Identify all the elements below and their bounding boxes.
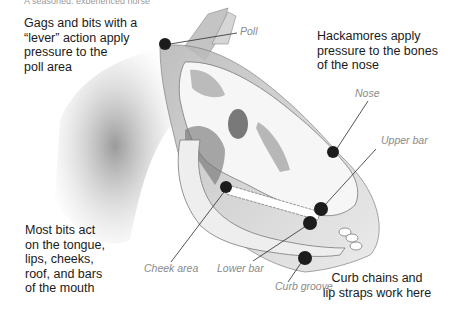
caption-line: on the tongue,: [25, 238, 135, 253]
neck-shading: [55, 48, 175, 244]
eye-socket: [228, 109, 248, 139]
caption-poll: Gags and bits with a “lever” action appl…: [24, 16, 184, 74]
nose-dot: [327, 146, 339, 158]
label-curb-groove: Curb groove: [275, 280, 333, 292]
caption-line: lips, cheeks,: [25, 252, 135, 267]
cheek-area-dot: [220, 181, 232, 193]
curb-groove-dot: [298, 251, 312, 265]
caption-nose: Hackamores apply pressure to the bones o…: [317, 29, 450, 73]
caption-line: Hackamores apply: [317, 29, 450, 44]
caption-line: Gags and bits with a: [24, 16, 184, 31]
label-poll: Poll: [240, 25, 258, 37]
caption-line: Curb chains and: [322, 271, 432, 286]
caption-line: of the mouth: [25, 281, 135, 296]
caption-line: pressure to the: [24, 45, 184, 60]
caption-line: roof, and bars: [25, 267, 135, 282]
label-cheek-area: Cheek area: [144, 262, 198, 274]
caption-line: pressure to the bones: [317, 44, 450, 59]
lower-bar-dot: [303, 216, 317, 230]
caption-line: of the nose: [317, 58, 450, 73]
caption-line: “lever” action apply: [24, 31, 184, 46]
caption-line: poll area: [24, 60, 184, 75]
caption-curb: Curb chains and lip straps work here: [322, 271, 432, 300]
caption-line: lip straps work here: [322, 286, 432, 301]
caption-line: Most bits act: [25, 223, 135, 238]
label-nose: Nose: [355, 87, 380, 99]
label-lower-bar: Lower bar: [217, 262, 264, 274]
label-upper-bar: Upper bar: [381, 134, 428, 146]
upper-bar-dot: [314, 202, 328, 216]
caption-mouth: Most bits act on the tongue, lips, cheek…: [25, 223, 135, 296]
